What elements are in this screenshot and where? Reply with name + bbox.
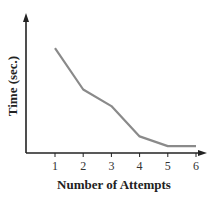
x-tick-label: 3 xyxy=(108,159,114,173)
x-tick-label: 2 xyxy=(80,159,86,173)
y-axis-arrow-icon xyxy=(23,13,29,22)
data-line xyxy=(55,48,196,146)
line-chart: 123456 Number of Attempts Time (sec.) xyxy=(0,0,215,201)
x-tick-label: 4 xyxy=(137,159,143,173)
y-axis-title: Time (sec.) xyxy=(5,56,20,116)
x-tick-label: 1 xyxy=(52,159,58,173)
x-tick-label: 5 xyxy=(165,159,171,173)
axes xyxy=(23,13,207,156)
x-ticks: 123456 xyxy=(52,153,199,173)
x-axis-arrow-icon xyxy=(198,150,207,156)
x-tick-label: 6 xyxy=(193,159,199,173)
x-axis-title: Number of Attempts xyxy=(57,177,171,192)
